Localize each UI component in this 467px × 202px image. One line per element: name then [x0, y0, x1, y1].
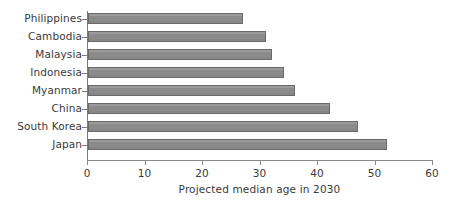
- bar-philippines: [88, 13, 243, 24]
- bar-row: South Korea: [0, 121, 467, 139]
- x-tick-mark: [202, 160, 203, 165]
- category-label-cambodia: Cambodia: [0, 31, 82, 42]
- bar-malaysia: [88, 49, 272, 60]
- y-axis-tick: [82, 109, 87, 110]
- x-tick-label: 30: [240, 167, 280, 179]
- bar-row: Myanmar: [0, 85, 467, 103]
- bar-chart: PhilippinesCambodiaMalaysiaIndonesiaMyan…: [0, 0, 467, 202]
- y-axis-tick: [82, 91, 87, 92]
- x-tick-label: 10: [125, 167, 165, 179]
- bar-china: [88, 103, 330, 114]
- x-tick-mark: [260, 160, 261, 165]
- category-label-myanmar: Myanmar: [0, 85, 82, 96]
- category-label-malaysia: Malaysia: [0, 49, 82, 60]
- x-tick-label: 20: [182, 167, 222, 179]
- category-label-south-korea: South Korea: [0, 121, 82, 132]
- bar-cambodia: [88, 31, 266, 42]
- bar-row: Indonesia: [0, 67, 467, 85]
- x-tick-mark: [317, 160, 318, 165]
- x-axis-title: Projected median age in 2030: [87, 183, 432, 195]
- bar-japan: [88, 139, 387, 150]
- x-tick-label: 40: [297, 167, 337, 179]
- bar-row: Japan: [0, 139, 467, 157]
- y-axis-tick: [82, 73, 87, 74]
- x-tick-mark: [432, 160, 433, 165]
- bar-row: China: [0, 103, 467, 121]
- bar-row: Philippines: [0, 13, 467, 31]
- bar-indonesia: [88, 67, 284, 78]
- x-tick-label: 0: [67, 167, 107, 179]
- x-tick-label: 60: [412, 167, 452, 179]
- category-label-japan: Japan: [0, 139, 82, 150]
- category-label-indonesia: Indonesia: [0, 67, 82, 78]
- x-tick-mark: [145, 160, 146, 165]
- y-axis-tick: [82, 37, 87, 38]
- x-tick-mark: [87, 160, 88, 165]
- plot-area: PhilippinesCambodiaMalaysiaIndonesiaMyan…: [0, 0, 467, 202]
- x-tick-label: 50: [355, 167, 395, 179]
- bar-row: Malaysia: [0, 49, 467, 67]
- bar-row: Cambodia: [0, 31, 467, 49]
- x-tick-mark: [375, 160, 376, 165]
- bar-south-korea: [88, 121, 358, 132]
- category-label-china: China: [0, 103, 82, 114]
- category-label-philippines: Philippines: [0, 13, 82, 24]
- y-axis-tick: [82, 127, 87, 128]
- y-axis-tick: [82, 145, 87, 146]
- bar-myanmar: [88, 85, 295, 96]
- y-axis-tick: [82, 55, 87, 56]
- y-axis-tick: [82, 19, 87, 20]
